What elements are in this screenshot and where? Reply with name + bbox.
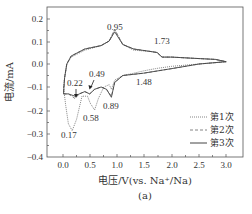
peak-annotations: 0.95 1.73 0.22 0.49 1.48 0.89 0.58 0.17 — [61, 22, 170, 140]
peak-label-0.95: 0.95 — [107, 22, 123, 32]
y-tick-label: 0.1 — [32, 37, 43, 47]
arrow-icon — [91, 80, 94, 87]
peak-label-1.48: 1.48 — [136, 77, 152, 87]
legend-label: 第2次 — [210, 124, 234, 135]
peak-label-1.73: 1.73 — [154, 36, 170, 46]
x-tick-labels: 0.0 0.5 1.0 1.5 2.0 2.5 3.0 — [57, 160, 232, 170]
peak-label-0.89: 0.89 — [103, 101, 119, 111]
x-tick-label: 1.0 — [111, 160, 123, 170]
peak-label-0.49: 0.49 — [89, 69, 105, 79]
legend-label: 第1次 — [210, 111, 234, 122]
y-tick-label: 0.2 — [32, 14, 43, 24]
legend-label: 第3次 — [210, 137, 234, 148]
figure-caption: (a) — [138, 190, 152, 201]
y-tick-label: −0.2 — [27, 106, 43, 116]
y-tick-labels: 0.2 0.1 0.0 −0.1 −0.2 −0.3 −0.4 — [27, 14, 44, 162]
y-tick-label: −0.1 — [27, 82, 43, 92]
y-axis — [47, 19, 50, 146]
cv-curve-solid — [64, 32, 227, 98]
x-tick-label: 2.5 — [193, 160, 205, 170]
legend: 第1次 第2次 第3次 — [190, 111, 234, 148]
x-tick-label: 2.0 — [166, 160, 178, 170]
x-tick-label: 0.0 — [57, 160, 69, 170]
y-tick-label: −0.4 — [27, 152, 44, 162]
cv-chart: 0.2 0.1 0.0 −0.1 −0.2 −0.3 −0.4 0.0 0.5 … — [0, 0, 252, 214]
y-tick-label: −0.3 — [27, 129, 44, 139]
x-axis — [63, 154, 226, 157]
peak-label-0.22: 0.22 — [67, 78, 83, 88]
y-tick-label: 0.0 — [32, 59, 44, 69]
x-tick-label: 1.5 — [138, 160, 150, 170]
x-tick-label: 3.0 — [220, 160, 232, 170]
x-axis-label: 电压/V(vs. Na⁺/Na) — [98, 174, 192, 186]
y-axis-label: 电流/mA — [3, 61, 15, 102]
x-tick-label: 0.5 — [84, 160, 96, 170]
peak-label-0.58: 0.58 — [83, 113, 99, 123]
peak-label-0.17: 0.17 — [61, 130, 77, 140]
